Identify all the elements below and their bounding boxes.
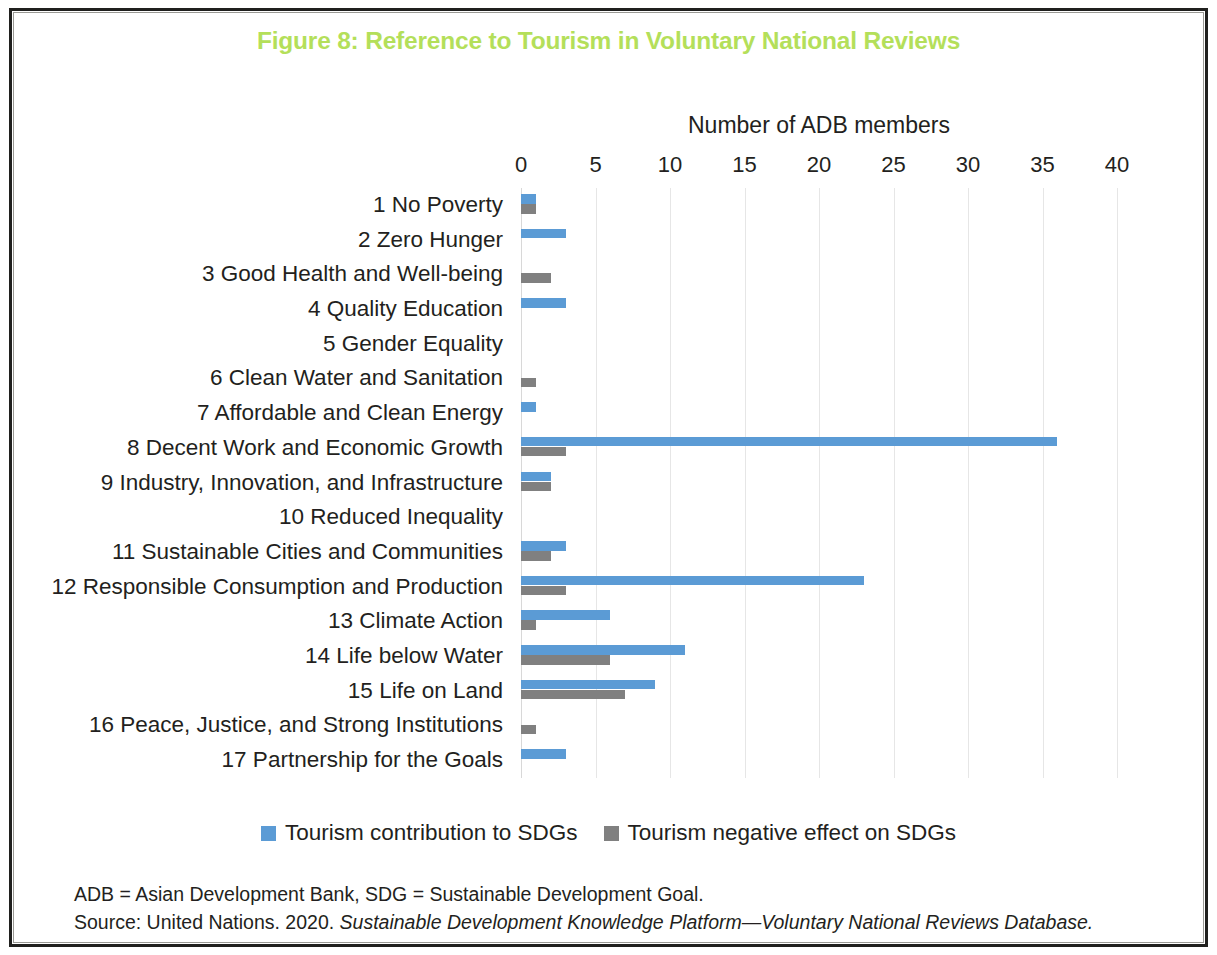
bar-negative: [521, 447, 566, 457]
bar-row: [521, 639, 1117, 674]
category-axis-labels: 1 No Poverty2 Zero Hunger3 Good Health a…: [0, 188, 512, 778]
bar-contribution: [521, 402, 536, 412]
bar-negative: [521, 204, 536, 214]
bar-contribution: [521, 680, 655, 690]
bar-contribution: [521, 645, 685, 655]
bar-row: [521, 535, 1117, 570]
category-label: 6 Clean Water and Sanitation: [0, 364, 512, 391]
x-tick-label-20: 20: [789, 152, 849, 178]
bar-row: [521, 674, 1117, 709]
x-tick-label-0: 0: [491, 152, 551, 178]
bar-contribution: [521, 194, 536, 204]
note-abbreviations: ADB = Asian Development Bank, SDG = Sust…: [74, 880, 1134, 908]
plot-area: [521, 188, 1117, 778]
x-tick-label-35: 35: [1013, 152, 1073, 178]
bar-negative: [521, 586, 566, 596]
category-label: 14 Life below Water: [0, 642, 512, 669]
category-label: 8 Decent Work and Economic Growth: [0, 434, 512, 461]
x-axis-title: Number of ADB members: [521, 112, 1117, 139]
x-tick-label-40: 40: [1087, 152, 1147, 178]
legend-label-negative: Tourism negative effect on SDGs: [628, 820, 957, 846]
x-tick-label-25: 25: [864, 152, 924, 178]
category-label: 16 Peace, Justice, and Strong Institutio…: [0, 711, 512, 738]
category-label: 15 Life on Land: [0, 677, 512, 704]
bar-negative: [521, 655, 610, 665]
category-label: 3 Good Health and Well-being: [0, 260, 512, 287]
bar-contribution: [521, 576, 864, 586]
bar-row: [521, 396, 1117, 431]
figure-notes: ADB = Asian Development Bank, SDG = Sust…: [74, 880, 1134, 936]
category-label: 10 Reduced Inequality: [0, 503, 512, 530]
bar-contribution: [521, 541, 566, 551]
note-source: Source: United Nations. 2020. Sustainabl…: [74, 908, 1134, 936]
category-label: 9 Industry, Innovation, and Infrastructu…: [0, 469, 512, 496]
bar-row: [521, 223, 1117, 258]
bar-contribution: [521, 749, 566, 759]
category-label: 2 Zero Hunger: [0, 226, 512, 253]
bar-negative: [521, 620, 536, 630]
figure-title: Figure 8: Reference to Tourism in Volunt…: [0, 27, 1217, 55]
bar-negative: [521, 690, 625, 700]
bar-negative: [521, 725, 536, 735]
bar-row: [521, 604, 1117, 639]
x-tick-label-30: 30: [938, 152, 998, 178]
bar-negative: [521, 482, 551, 492]
bar-contribution: [521, 610, 610, 620]
x-tick-label-5: 5: [566, 152, 626, 178]
bar-negative: [521, 551, 551, 561]
bar-row: [521, 188, 1117, 223]
category-label: 4 Quality Education: [0, 295, 512, 322]
category-label: 5 Gender Equality: [0, 330, 512, 357]
bar-contribution: [521, 229, 566, 239]
bar-row: [521, 362, 1117, 397]
bar-row: [521, 500, 1117, 535]
category-label: 13 Climate Action: [0, 607, 512, 634]
bar-rows: [521, 188, 1117, 778]
bar-contribution: [521, 472, 551, 482]
figure-page: Figure 8: Reference to Tourism in Volunt…: [0, 0, 1217, 955]
bar-contribution: [521, 298, 566, 308]
gridline-40: [1117, 188, 1118, 778]
legend-swatch-negative: [604, 826, 619, 841]
legend-item-negative[interactable]: Tourism negative effect on SDGs: [604, 820, 957, 846]
chart-legend: Tourism contribution to SDGsTourism nega…: [0, 820, 1217, 846]
category-label: 11 Sustainable Cities and Communities: [0, 538, 512, 565]
category-label: 1 No Poverty: [0, 191, 512, 218]
legend-item-contribution[interactable]: Tourism contribution to SDGs: [261, 820, 578, 846]
legend-label-contribution: Tourism contribution to SDGs: [285, 820, 578, 846]
legend-swatch-contribution: [261, 826, 276, 841]
category-label: 17 Partnership for the Goals: [0, 746, 512, 773]
bar-negative: [521, 378, 536, 388]
x-tick-label-10: 10: [640, 152, 700, 178]
bar-row: [521, 466, 1117, 501]
source-prefix: Source: United Nations. 2020.: [74, 911, 340, 933]
bar-row: [521, 431, 1117, 466]
source-title: Sustainable Development Knowledge Platfo…: [340, 911, 1094, 933]
category-label: 12 Responsible Consumption and Productio…: [0, 573, 512, 600]
bar-contribution: [521, 437, 1057, 447]
x-tick-label-15: 15: [715, 152, 775, 178]
bar-row: [521, 257, 1117, 292]
bar-row: [521, 570, 1117, 605]
bar-row: [521, 327, 1117, 362]
bar-row: [521, 292, 1117, 327]
bar-row: [521, 709, 1117, 744]
bar-negative: [521, 273, 551, 283]
bar-row: [521, 743, 1117, 778]
category-label: 7 Affordable and Clean Energy: [0, 399, 512, 426]
x-axis-tick-labels: 0510152025303540: [0, 152, 1217, 178]
